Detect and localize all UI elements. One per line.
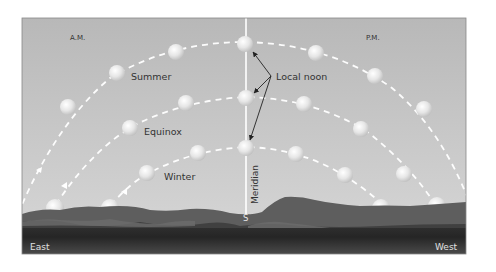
winter-label: Winter [164,171,195,182]
sun-icon [396,166,412,182]
sun-icon [288,146,304,162]
sun-icon [238,140,254,156]
summer-label: Summer [131,71,171,82]
sun-icon [190,145,206,161]
sun-icon [109,65,125,81]
pm-label: P.M. [366,34,380,42]
south-label: S [243,213,248,223]
am-label: A.M. [70,34,85,42]
meridian-label: Meridian [250,165,260,204]
sun-icon [168,44,184,60]
sun-icon [139,165,155,181]
east-label: East [30,242,50,252]
sun-icon [237,36,253,52]
local-noon-label: Local noon [276,71,327,82]
ground [22,228,466,254]
sun-icon [337,167,353,183]
diagram-canvas: A.M. P.M. Summer Equinox Winter Local no… [0,0,496,272]
sun-icon [238,90,254,106]
sun-path-diagram: A.M. P.M. Summer Equinox Winter Local no… [0,0,496,272]
sun-icon [178,95,194,111]
sun-icon [60,99,76,115]
sun-icon [296,96,312,112]
sun-icon [416,101,432,117]
sun-icon [122,120,138,136]
sun-icon [367,68,383,84]
equinox-label: Equinox [144,126,182,137]
west-label: West [435,242,458,252]
sun-icon [353,121,369,137]
sun-icon [308,45,324,61]
